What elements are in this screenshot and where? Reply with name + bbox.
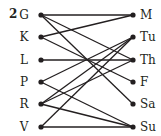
node-dot-tu <box>130 34 135 39</box>
node-dot-th <box>130 57 135 62</box>
node-dot-v <box>38 124 43 129</box>
node-dot-sa <box>130 101 135 106</box>
edge-r-su <box>41 104 133 127</box>
bipartite-graph <box>0 0 161 136</box>
edge-v-tu <box>41 37 133 127</box>
node-dot-g <box>38 12 43 17</box>
edge-k-m <box>41 15 133 37</box>
edge-g-th <box>41 15 133 60</box>
node-dot-r <box>38 101 43 106</box>
edge-r-tu <box>41 37 133 104</box>
node-dot-p <box>38 79 43 84</box>
node-dot-k <box>38 34 43 39</box>
edge-p-su <box>41 82 133 127</box>
node-dot-su <box>130 124 135 129</box>
node-dot-m <box>130 12 135 17</box>
node-dot-f <box>130 79 135 84</box>
node-dot-l <box>38 57 43 62</box>
